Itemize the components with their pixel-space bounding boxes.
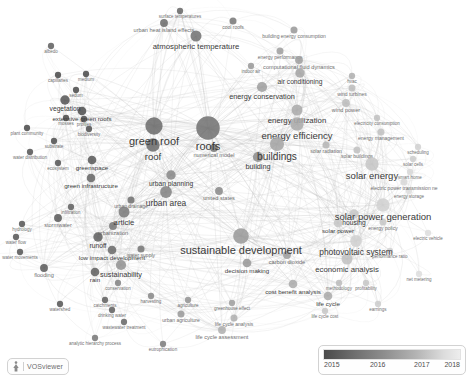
graph-node[interactable]: medium [78, 71, 94, 82]
graph-node[interactable]: indoor air [242, 63, 261, 74]
network-visualization-canvas[interactable]: watershedcatchmentsdrinking waterwastewa… [0, 0, 472, 381]
node-circle[interactable] [93, 232, 102, 241]
graph-node[interactable]: agriculture [177, 297, 199, 308]
graph-node[interactable]: electric vehicle [413, 230, 443, 241]
graph-node[interactable]: water movements [2, 249, 38, 260]
node-circle[interactable] [17, 249, 23, 255]
node-circle[interactable] [295, 68, 304, 77]
node-circle[interactable] [55, 160, 61, 166]
node-circle[interactable] [19, 221, 25, 227]
node-circle[interactable] [54, 214, 62, 222]
node-circle[interactable] [425, 230, 431, 236]
node-circle[interactable] [270, 137, 284, 151]
graph-node[interactable]: watershed [50, 301, 71, 312]
graph-node[interactable]: rain [90, 268, 101, 283]
node-circle[interactable] [349, 73, 355, 79]
graph-node[interactable]: solar radiation [310, 141, 342, 154]
node-circle[interactable] [322, 308, 328, 314]
node-circle[interactable] [218, 326, 226, 334]
node-circle[interactable] [68, 204, 74, 210]
node-circle[interactable] [55, 72, 61, 78]
graph-node[interactable]: substrate [45, 138, 64, 149]
graph-node[interactable]: surface temperatures [159, 8, 202, 19]
graph-node[interactable]: photovoltaic system [319, 235, 393, 256]
graph-node[interactable]: sedum [69, 87, 83, 98]
node-circle[interactable] [375, 301, 381, 307]
node-circle[interactable] [13, 234, 19, 240]
node-circle[interactable] [102, 297, 108, 303]
node-circle[interactable] [73, 87, 79, 93]
node-circle[interactable] [376, 198, 389, 211]
node-circle[interactable] [248, 63, 254, 69]
node-circle[interactable] [290, 117, 303, 130]
graph-node[interactable]: earnings [369, 301, 387, 312]
node-circle[interactable] [233, 228, 249, 244]
node-circle[interactable] [166, 170, 175, 179]
node-circle[interactable] [145, 117, 162, 134]
graph-node[interactable]: net metering [406, 271, 432, 282]
graph-node[interactable]: analytic hierarchy process [69, 335, 122, 346]
graph-node[interactable]: plant community [11, 125, 45, 136]
node-circle[interactable] [416, 271, 422, 277]
node-circle[interactable] [40, 264, 48, 272]
node-circle[interactable] [92, 335, 98, 341]
node-circle[interactable] [191, 31, 202, 42]
node-circle[interactable] [215, 187, 223, 195]
graph-node[interactable]: water flow [6, 234, 27, 245]
graph-node[interactable]: ecosystem [47, 160, 69, 171]
graph-node[interactable]: hydrology [12, 221, 32, 232]
node-circle[interactable] [257, 82, 267, 92]
graph-node[interactable]: water distribution [13, 149, 48, 160]
node-circle[interactable] [119, 207, 130, 218]
node-circle[interactable] [410, 156, 416, 162]
node-circle[interactable] [109, 307, 115, 313]
network-graph[interactable]: watershedcatchmentsdrinking waterwastewa… [0, 0, 472, 381]
node-circle[interactable] [148, 293, 154, 299]
node-circle[interactable] [24, 125, 30, 131]
node-label: albedo [44, 49, 58, 54]
node-circle[interactable] [336, 280, 342, 286]
node-label: methodology [326, 286, 353, 291]
node-circle[interactable] [160, 19, 168, 27]
node-circle[interactable] [365, 157, 378, 170]
node-label: solar power [322, 227, 354, 234]
node-circle[interactable] [51, 138, 57, 144]
node-circle[interactable] [363, 280, 369, 286]
graph-node[interactable]: solar cells [403, 156, 424, 167]
node-circle[interactable] [177, 8, 183, 14]
graph-node[interactable]: roofs [196, 116, 221, 152]
node-circle[interactable] [116, 260, 126, 270]
node-circle[interactable] [374, 115, 380, 121]
graph-node[interactable]: hvac [347, 73, 357, 84]
graph-node[interactable]: urban agriculture [162, 310, 200, 323]
node-circle[interactable] [60, 95, 69, 104]
graph-node[interactable]: cool roofs [222, 17, 244, 30]
node-circle[interactable] [196, 116, 220, 140]
node-circle[interactable] [229, 300, 235, 306]
graph-node[interactable]: urban heat island effects [134, 19, 195, 33]
node-circle[interactable] [115, 280, 121, 286]
node-circle[interactable] [160, 186, 172, 198]
graph-node[interactable]: eutrophication [149, 341, 178, 352]
graph-node[interactable]: smart home [398, 169, 422, 180]
node-circle[interactable] [350, 235, 362, 247]
node-circle[interactable] [121, 319, 127, 325]
node-circle[interactable] [342, 99, 350, 107]
graph-node[interactable]: albedo [44, 43, 58, 54]
graph-node[interactable]: urban drainage [114, 196, 148, 209]
graph-node[interactable]: scheduling [407, 144, 429, 155]
node-circle[interactable] [295, 56, 303, 64]
node-circle[interactable] [57, 301, 63, 307]
vosviewer-logo[interactable]: VOSviewer [7, 358, 69, 375]
node-circle[interactable] [83, 71, 89, 77]
node-circle[interactable] [407, 169, 413, 175]
node-circle[interactable] [27, 149, 33, 155]
node-circle[interactable] [160, 341, 166, 347]
graph-node[interactable]: electricity consumption [354, 115, 400, 126]
graph-node[interactable]: wastewater treatment [102, 319, 146, 330]
node-circle[interactable] [292, 105, 303, 116]
node-label: net metering [406, 277, 432, 282]
node-circle[interactable] [185, 297, 191, 303]
node-circle[interactable] [415, 144, 421, 150]
node-circle[interactable] [48, 43, 54, 49]
